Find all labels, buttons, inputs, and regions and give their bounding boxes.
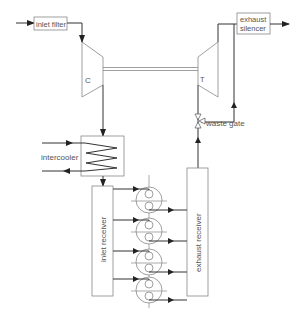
exhaust-up-arrow	[195, 137, 201, 143]
turbine-label: T	[200, 75, 205, 84]
inlet-receiver: inlet receiver	[92, 186, 113, 296]
cylinder-3	[113, 248, 187, 275]
waste-gate-valve: waste gate	[195, 114, 245, 128]
waste-gate-label: waste gate	[205, 119, 245, 128]
exhaust-receiver-label: exhaust receiver	[194, 213, 203, 272]
inlet-filter-label: inlet filter	[36, 20, 67, 29]
turbine: T	[198, 42, 218, 97]
compressor: C	[82, 42, 103, 97]
intake-valve	[145, 190, 153, 198]
exhaust-valve	[145, 264, 153, 272]
inlet-receiver-label: inlet receiver	[99, 216, 108, 262]
coolant-out-arrow	[63, 168, 70, 174]
exhaust-receiver: exhaust receiver	[187, 168, 208, 296]
turbocharger-diagram: inlet filter C T exhaust silencer wast	[0, 0, 304, 312]
bypass-up-arrow	[231, 102, 237, 108]
cylinder-1	[113, 186, 187, 213]
intercooler: intercooler	[41, 136, 124, 176]
exhaust-valve	[145, 233, 153, 241]
exhaust-silencer-label-2: silencer	[240, 24, 266, 33]
cylinder-2	[113, 217, 187, 244]
filter-to-compressor-line	[67, 23, 82, 42]
intercooler-label: intercooler	[41, 153, 79, 162]
shaft	[103, 68, 198, 71]
cylinder-4	[113, 276, 187, 303]
compressor-shape	[82, 42, 103, 97]
turbine-shape	[198, 42, 218, 97]
intake-valve	[145, 252, 153, 260]
exhaust-valve	[145, 202, 153, 210]
compressor-label: C	[85, 76, 91, 85]
coolant-in-arrow	[66, 140, 73, 146]
exhaust-silencer: exhaust silencer	[237, 13, 289, 34]
intake-valve	[145, 221, 153, 229]
exhaust-silencer-label-1: exhaust	[240, 15, 267, 24]
exhaust-valve	[145, 292, 153, 300]
intake-valve	[145, 280, 153, 288]
inlet-filter: inlet filter	[16, 17, 82, 42]
